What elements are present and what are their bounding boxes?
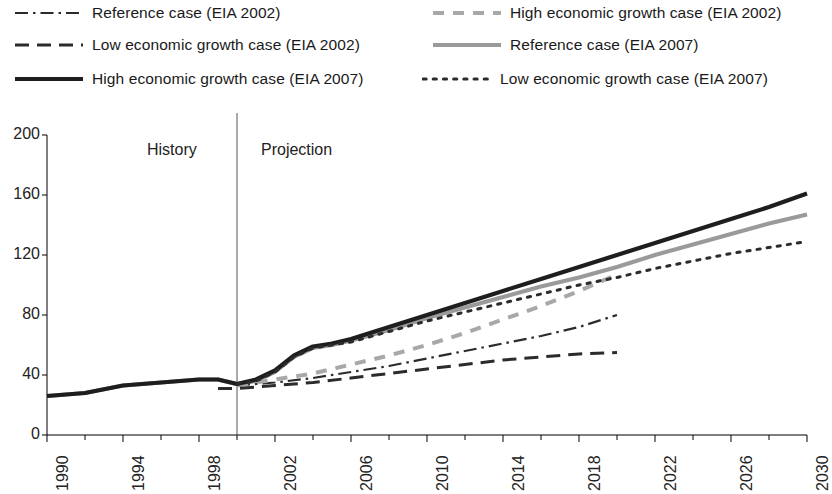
chart-area: 04080120160200 1990199419982002200620102… [0,105,817,494]
x-axis-tick-label: 2002 [282,455,300,491]
x-axis-tick-label: 2030 [814,455,832,491]
legend-label-1: High economic growth case (EIA 2002) [502,4,782,22]
y-axis-tick-label: 40 [0,365,40,383]
legend-swatch-0 [14,6,84,20]
x-axis-tick-label: 2010 [434,455,452,491]
legend-item-5: Low economic growth case (EIA 2007) [422,70,768,88]
legend-item-4: High economic growth case (EIA 2007) [14,70,364,88]
x-axis-tick-label: 2018 [586,455,604,491]
x-axis-tick-label: 1990 [54,455,72,491]
x-axis-tick-label: 2014 [510,455,528,491]
x-axis-tick-label: 2006 [358,455,376,491]
y-axis-tick-label: 200 [0,125,40,143]
legend-item-2: Low economic growth case (EIA 2002) [14,36,360,54]
series-line-4 [47,194,807,397]
legend-swatch-1 [432,6,502,20]
legend-swatch-3 [432,38,502,52]
y-axis-tick-label: 160 [0,185,40,203]
x-axis-tick-label: 1998 [206,455,224,491]
legend-item-1: High economic growth case (EIA 2002) [432,4,782,22]
x-axis-tick-label: 2022 [662,455,680,491]
legend-label-3: Reference case (EIA 2007) [502,36,699,54]
legend-label-0: Reference case (EIA 2002) [84,4,281,22]
projection-annotation: Projection [261,141,332,159]
legend-label-2: Low economic growth case (EIA 2002) [84,36,360,54]
x-axis-tick-label: 2026 [738,455,756,491]
x-axis-tick-label: 1994 [130,455,148,491]
legend-swatch-2 [14,38,84,52]
legend-swatch-5 [422,72,492,86]
plot-canvas [0,105,817,494]
legend-item-0: Reference case (EIA 2002) [14,4,281,22]
history-annotation: History [147,141,197,159]
legend-swatch-4 [14,72,84,86]
chart-legend: Reference case (EIA 2002)High economic g… [0,0,817,105]
legend-label-5: Low economic growth case (EIA 2007) [492,70,768,88]
legend-item-3: Reference case (EIA 2007) [432,36,699,54]
series-line-5 [237,242,807,385]
y-axis-tick-label: 0 [0,425,40,443]
y-axis-tick-label: 80 [0,305,40,323]
series-line-0 [237,315,617,386]
legend-label-4: High economic growth case (EIA 2007) [84,70,364,88]
y-axis-tick-label: 120 [0,245,40,263]
